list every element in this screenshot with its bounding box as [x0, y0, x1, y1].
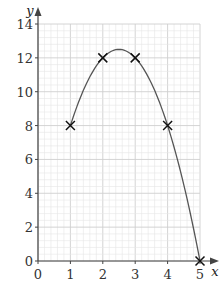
y-axis-label: y	[25, 3, 34, 18]
x-axis-label: x	[211, 264, 219, 279]
y-tick-label: 2	[25, 220, 33, 235]
y-tick-label: 12	[16, 51, 33, 66]
y-tick-label: 10	[16, 85, 33, 100]
x-tick-label: 4	[163, 267, 171, 282]
chart: xy01234502468101214	[0, 0, 224, 288]
y-tick-label: 0	[25, 254, 33, 269]
x-tick-label: 2	[99, 267, 107, 282]
x-tick-label: 3	[131, 267, 139, 282]
x-tick-label: 1	[66, 267, 74, 282]
y-tick-label: 6	[25, 152, 33, 167]
x-tick-label: 0	[34, 267, 42, 282]
y-tick-label: 14	[16, 17, 33, 32]
y-tick-label: 4	[25, 186, 33, 201]
y-axis-arrow-icon	[35, 7, 42, 16]
x-tick-label: 5	[196, 267, 204, 282]
y-tick-label: 8	[25, 119, 33, 134]
